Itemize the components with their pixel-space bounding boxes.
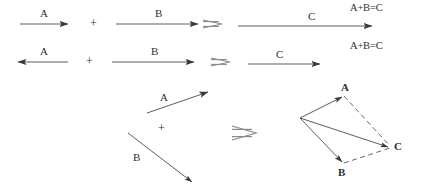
row3-label-a: A xyxy=(160,92,168,103)
row3-vector-a xyxy=(147,92,208,113)
row2-label-a: A xyxy=(40,46,48,57)
row2-label-c: C xyxy=(276,49,283,60)
row1-label-b: B xyxy=(155,8,162,19)
row3-implies-arrow xyxy=(232,126,256,140)
diagram-canvas xyxy=(0,0,424,191)
row2-implies-arrow xyxy=(211,58,230,66)
row1-label-c: C xyxy=(308,11,315,22)
row3-label-plus: + xyxy=(158,122,165,134)
row2-label-b: B xyxy=(151,46,158,57)
row1-label-plus: + xyxy=(90,17,97,29)
parallelogram-vertex-label-b: B xyxy=(338,167,345,178)
parallelogram-vector-a xyxy=(300,97,342,118)
parallelogram-dashed-side-b-c xyxy=(344,148,390,163)
row1-equation: A+B=C xyxy=(350,3,382,14)
vector-addition-diagram: A + B C A+B=C A + B C A+B=C A + B A B C xyxy=(0,0,424,191)
row1-label-a: A xyxy=(40,8,48,19)
parallelogram-vertex-label-c: C xyxy=(394,141,402,152)
row1-implies-arrow xyxy=(203,20,222,28)
row2-equation: A+B=C xyxy=(350,41,382,52)
row2-label-plus: + xyxy=(86,55,93,67)
parallelogram-dashed-side-a-c xyxy=(344,96,390,146)
row3-label-b: B xyxy=(133,152,140,163)
parallelogram-resultant-c xyxy=(300,118,388,147)
parallelogram-vertex-label-a: A xyxy=(341,82,349,93)
